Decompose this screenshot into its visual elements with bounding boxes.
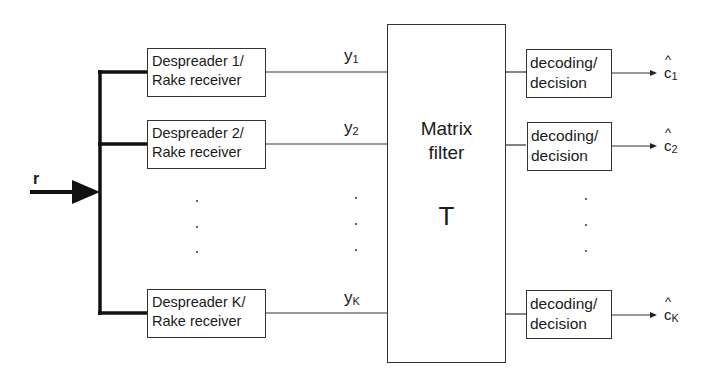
ellipsis-dot: [585, 224, 587, 226]
output-y1-label: y1: [344, 46, 359, 66]
ellipsis-dot: [196, 251, 198, 253]
ellipsis-dot: [196, 200, 198, 202]
matrix-filter-box: Matrixfilter T: [387, 24, 506, 363]
decoder-k-label: decoding/: [530, 295, 597, 312]
despreader-k-label: Despreader K/: [152, 294, 246, 310]
despreader-2-sublabel: Rake receiver: [152, 144, 241, 160]
despreader-2-label: Despreader 2/: [152, 125, 244, 141]
ellipsis-dot: [355, 223, 357, 225]
decoder-box-k: decoding/decision: [526, 290, 612, 339]
ellipsis-dot: [585, 198, 587, 200]
rake-multiuser-receiver-diagram: r Despreader 1/Rake receiver Despreader …: [0, 0, 705, 381]
decoder-k-sublabel: decision: [530, 315, 587, 332]
despreader-box-2: Despreader 2/Rake receiver: [147, 120, 266, 169]
despreader-k-sublabel: Rake receiver: [152, 313, 241, 329]
estimate-c1-label: ^c1: [664, 64, 678, 82]
ellipsis-dot: [585, 250, 587, 252]
decoder-1-label: decoding/: [530, 54, 597, 71]
ellipsis-dot: [196, 226, 198, 228]
output-yk-label: yK: [344, 288, 360, 308]
ellipsis-dot: [355, 197, 357, 199]
matrix-symbol: T: [388, 201, 505, 232]
decoder-box-2: decoding/decision: [527, 122, 612, 171]
estimate-ck-label: ^cK: [664, 306, 679, 324]
decoder-2-label: decoding/: [531, 127, 598, 144]
decoder-1-sublabel: decision: [530, 74, 587, 91]
estimate-c2-label: ^c2: [664, 137, 678, 155]
input-arrowhead-icon: [72, 180, 100, 204]
decoder-box-1: decoding/decision: [526, 49, 612, 98]
input-signal-label: r: [33, 170, 39, 188]
despreader-box-k: Despreader K/Rake receiver: [147, 289, 266, 338]
output-y2-label: y2: [344, 118, 359, 138]
decoder-2-sublabel: decision: [531, 147, 588, 164]
matrix-filter-label: Matrixfilter: [388, 117, 505, 165]
despreader-box-1: Despreader 1/Rake receiver: [147, 48, 266, 97]
ellipsis-dot: [355, 249, 357, 251]
despreader-1-sublabel: Rake receiver: [152, 72, 241, 88]
despreader-1-label: Despreader 1/: [152, 53, 244, 69]
